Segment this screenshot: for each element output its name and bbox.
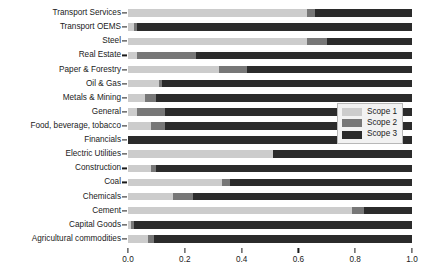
x-axis-tick	[127, 248, 128, 253]
bar-segment-scope-1	[128, 165, 151, 173]
chart-legend: Scope 1Scope 2Scope 3	[337, 103, 403, 144]
x-axis-tick	[411, 248, 412, 253]
bar-track	[128, 193, 412, 201]
bar-track	[128, 66, 412, 74]
bar-track	[128, 23, 412, 31]
bar-row	[128, 179, 412, 187]
y-axis-tick	[122, 196, 127, 197]
x-axis-tick-label: 0.2	[179, 256, 190, 264]
bar-segment-scope-2	[137, 108, 165, 116]
y-axis-label: Electric Utilities	[65, 150, 121, 158]
y-axis-label: Metals & Mining	[63, 94, 121, 102]
bar-segment-scope-1	[128, 207, 352, 215]
bar-segment-scope-1	[128, 193, 173, 201]
bar-segment-scope-1	[128, 179, 222, 187]
bar-segment-scope-3	[273, 150, 412, 158]
bar-segment-scope-1	[128, 235, 148, 243]
y-axis-label: General	[92, 108, 121, 116]
bar-segment-scope-1	[128, 108, 137, 116]
bar-track	[128, 150, 412, 158]
y-axis-label: Paper & Forestry	[59, 65, 121, 73]
legend-item-scope-1[interactable]: Scope 1	[342, 108, 397, 116]
y-axis-tick	[122, 238, 127, 239]
bar-segment-scope-3	[230, 179, 412, 187]
bar-row	[128, 193, 412, 201]
y-axis-tick	[122, 12, 127, 13]
legend-swatch-icon	[342, 131, 362, 139]
bar-row	[128, 150, 412, 158]
y-axis-tick	[122, 55, 127, 56]
bar-segment-scope-2	[219, 66, 247, 74]
bar-row	[128, 221, 412, 229]
bar-row	[128, 9, 412, 17]
bar-track	[128, 80, 412, 88]
y-axis-label: Transport OEMS	[60, 23, 121, 31]
legend-item-scope-2[interactable]: Scope 2	[342, 119, 397, 127]
y-axis-tick	[122, 125, 127, 126]
y-axis-tick	[122, 69, 127, 70]
bar-segment-scope-3	[137, 23, 412, 31]
bar-track	[128, 9, 412, 17]
y-axis-category-labels: Transport ServicesTransport OEMSSteelRea…	[0, 6, 121, 246]
x-axis-tick-label: 0.8	[349, 256, 360, 264]
y-axis-label: Capital Goods	[69, 221, 121, 229]
y-axis-label: Coal	[104, 178, 121, 186]
bar-row	[128, 52, 412, 60]
y-axis-label: Chemicals	[83, 192, 121, 200]
bar-segment-scope-1	[128, 52, 137, 60]
bar-track	[128, 235, 412, 243]
legend-item-scope-3[interactable]: Scope 3	[342, 130, 397, 138]
y-axis-label: Cement	[92, 207, 121, 215]
y-axis-tick	[122, 27, 127, 28]
x-axis-tick-label: 0.6	[293, 256, 304, 264]
bar-row	[128, 165, 412, 173]
bar-row	[128, 80, 412, 88]
bar-segment-scope-1	[128, 122, 151, 130]
bar-row	[128, 207, 412, 215]
bar-segment-scope-2	[352, 207, 363, 215]
y-axis-tick	[122, 168, 127, 169]
y-axis-label: Agricultural commodities	[32, 235, 121, 243]
y-axis-tick	[122, 224, 127, 225]
bar-segment-scope-3	[315, 9, 412, 17]
y-axis-tick	[122, 182, 127, 183]
bar-segment-scope-1	[128, 150, 273, 158]
y-axis-label: Oil & Gas	[86, 80, 121, 88]
bar-segment-scope-1	[128, 94, 145, 102]
bar-segment-scope-3	[156, 165, 412, 173]
bar-segment-scope-2	[151, 122, 165, 130]
x-axis-tick-label: 0.4	[236, 256, 247, 264]
stacked-bar-chart: Transport ServicesTransport OEMSSteelRea…	[0, 0, 439, 275]
bar-row	[128, 23, 412, 31]
bar-segment-scope-3	[162, 80, 412, 88]
bar-track	[128, 94, 412, 102]
y-axis-label: Financials	[84, 136, 121, 144]
y-axis-tick	[122, 111, 127, 112]
x-axis-tick-label: 1.0	[406, 256, 417, 264]
bar-segment-scope-2	[145, 94, 156, 102]
bar-row	[128, 235, 412, 243]
bar-segment-scope-1	[128, 38, 307, 46]
bar-track	[128, 38, 412, 46]
bar-segment-scope-2	[173, 193, 193, 201]
bar-segment-scope-3	[196, 52, 412, 60]
bar-segment-scope-3	[193, 193, 412, 201]
bar-row	[128, 94, 412, 102]
legend-label: Scope 3	[367, 130, 397, 138]
y-axis-label: Food, beverage, tobacco	[30, 122, 121, 130]
bar-segment-scope-1	[128, 80, 159, 88]
x-axis-tick	[298, 248, 299, 253]
x-axis-tick	[184, 248, 185, 253]
bar-segment-scope-3	[134, 221, 412, 229]
bar-segment-scope-2	[137, 52, 197, 60]
y-axis-tick	[122, 210, 127, 211]
y-axis-tick	[122, 97, 127, 98]
bar-segment-scope-3	[154, 235, 412, 243]
bar-segment-scope-1	[128, 9, 307, 17]
x-axis-tick	[355, 248, 356, 253]
y-axis-label: Real Estate	[79, 51, 121, 59]
bar-segment-scope-2	[307, 9, 316, 17]
bar-track	[128, 52, 412, 60]
bar-row	[128, 66, 412, 74]
legend-swatch-icon	[342, 119, 362, 127]
